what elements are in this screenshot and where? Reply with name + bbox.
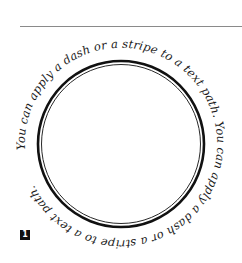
circular-text: You can apply a dash or a stripe to a te… bbox=[14, 37, 229, 252]
circular-text-path: You can apply a dash or a stripe to a te… bbox=[14, 37, 229, 252]
ring-inner-stroke bbox=[42, 65, 201, 224]
figure-number-badge: 1 bbox=[20, 230, 30, 240]
ring-outer-stroke bbox=[38, 61, 204, 227]
text-on-path-figure: You can apply a dash or a stripe to a te… bbox=[0, 0, 242, 263]
